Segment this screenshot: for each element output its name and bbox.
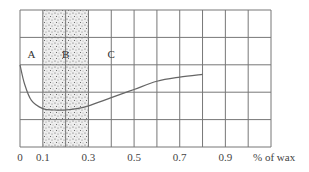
region-label-a: A — [27, 48, 35, 60]
region-label-b: B — [62, 48, 69, 60]
x-tick-label: 0.3 — [82, 151, 96, 163]
x-tick-label: 0.9 — [218, 151, 232, 163]
x-tick-label: 0 — [17, 151, 23, 163]
chart-canvas — [0, 0, 309, 172]
region-label-c: C — [108, 48, 115, 60]
x-tick-label: 0.7 — [173, 151, 187, 163]
x-tick-label: 0.5 — [127, 151, 141, 163]
x-tick-label: 0.1 — [36, 151, 50, 163]
x-axis-label: % of wax — [253, 151, 295, 163]
